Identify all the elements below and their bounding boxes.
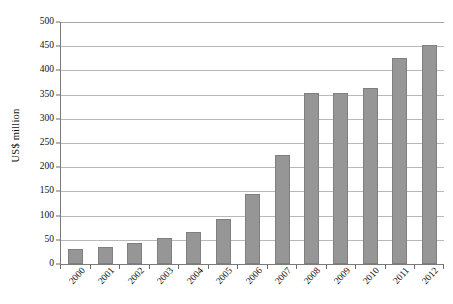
bar-2006 [245, 194, 260, 264]
bar-2002 [127, 243, 142, 264]
y-axis-tick-label: 0 [49, 259, 54, 269]
bar-slot [149, 22, 178, 264]
bar-2007 [275, 155, 290, 264]
x-label-slot: 2005 [207, 271, 236, 304]
bar-2010 [363, 88, 378, 264]
x-axis-tick-mark [60, 265, 61, 269]
x-label-slot: 2008 [296, 271, 325, 304]
x-label-slot: 2001 [89, 271, 118, 304]
x-axis-tick-mark [178, 265, 179, 269]
bar-slot [267, 22, 296, 264]
x-axis-tick-mark [414, 265, 415, 269]
x-axis-tick-mark [149, 265, 150, 269]
bar-slot [90, 22, 119, 264]
bar-2000 [68, 249, 83, 264]
x-label-slot: 2006 [237, 271, 266, 304]
x-label-slot: 2010 [355, 271, 384, 304]
bar-2005 [216, 219, 231, 264]
bar-slot [179, 22, 208, 264]
bar-slot [238, 22, 267, 264]
bar-2003 [157, 238, 172, 264]
y-axis-tick-label: 200 [40, 162, 54, 172]
bar-slot [208, 22, 237, 264]
y-axis-tick-label: 450 [40, 41, 54, 51]
bar-series [61, 22, 444, 264]
x-label-slot: 2002 [119, 271, 148, 304]
x-label-slot: 2011 [384, 271, 413, 304]
y-axis-tick-label: 100 [40, 211, 54, 221]
bar-2004 [186, 232, 201, 264]
x-axis-tick-mark [119, 265, 120, 269]
bar-slot [326, 22, 355, 264]
bar-chart: US$ million 0501001502002503003504004505… [0, 0, 453, 304]
x-axis-tick-mark [267, 265, 268, 269]
plot-area [60, 22, 444, 265]
y-axis-tick-label: 500 [40, 17, 54, 27]
y-axis-title-text: US$ million [11, 108, 22, 162]
x-axis-tick-mark [90, 265, 91, 269]
bar-2009 [333, 93, 348, 264]
x-axis-tick-mark [385, 265, 386, 269]
bar-2012 [422, 45, 437, 264]
x-label-slot: 2007 [266, 271, 295, 304]
x-axis-tick-mark [296, 265, 297, 269]
bar-slot [297, 22, 326, 264]
y-axis-tick-label: 150 [40, 187, 54, 197]
y-axis-tick-labels: 050100150200250300350400450500 [26, 22, 54, 264]
x-label-slot: 2009 [325, 271, 354, 304]
bar-slot [415, 22, 444, 264]
y-axis-tick-label: 50 [45, 235, 55, 245]
bar-slot [385, 22, 414, 264]
y-axis-tick-label: 350 [40, 90, 54, 100]
y-axis-tick-label: 250 [40, 138, 54, 148]
bar-2011 [392, 58, 407, 264]
x-axis-tick-mark [208, 265, 209, 269]
x-axis-tick-mark [237, 265, 238, 269]
bar-2001 [98, 247, 113, 264]
x-label-slot: 2000 [60, 271, 89, 304]
x-label-slot: 2012 [414, 271, 443, 304]
y-axis-title: US$ million [6, 0, 26, 270]
x-axis-tick-labels: 2000200120022003200420052006200720082009… [60, 271, 443, 304]
x-axis-tick-mark [326, 265, 327, 269]
y-axis-tick-label: 300 [40, 114, 54, 124]
bar-slot [61, 22, 90, 264]
bar-2008 [304, 93, 319, 264]
y-axis-tick-label: 400 [40, 66, 54, 76]
x-label-slot: 2003 [148, 271, 177, 304]
bar-slot [356, 22, 385, 264]
x-axis-tick-mark [355, 265, 356, 269]
x-label-slot: 2004 [178, 271, 207, 304]
x-axis-tick-mark-end [443, 265, 444, 269]
bar-slot [120, 22, 149, 264]
